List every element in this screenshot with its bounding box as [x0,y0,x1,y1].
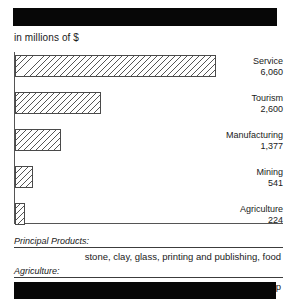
products-row-header: Agriculture: [14,266,283,278]
bar-service [15,55,216,77]
redacted-title-text [13,8,277,26]
products-row: Principal Products:stone, clay, glass, p… [14,236,283,266]
bar-category-name: Tourism [251,93,283,104]
bar-value-label: 1,377 [226,141,283,152]
redacted-title-banner [13,8,277,26]
bar-value-label: 6,060 [253,67,283,78]
bar-value-label: 541 [256,178,283,189]
bar-mining [15,166,33,188]
bar-label-tourism: Tourism2,600 [251,93,283,115]
redacted-footer-text [14,282,276,299]
units-caption: in millions of $ [14,32,79,43]
bar-label-mining: Mining541 [256,167,283,189]
products-row-header: Principal Products: [14,236,283,248]
bar-row [15,92,283,114]
bar-row [15,55,283,77]
redacted-footer-banner [14,282,276,299]
bar-category-name: Mining [256,167,283,178]
bar-label-manufacturing: Manufacturing1,377 [226,130,283,152]
bar-row [15,166,283,188]
bar-tourism [15,92,101,114]
bar-value-label: 2,600 [251,104,283,115]
bar-label-service: Service6,060 [253,56,283,78]
bar-value-label: 224 [240,215,283,226]
industry-bar-chart: Service6,060Tourism2,600Manufacturing1,3… [0,52,291,230]
products-row-value: stone, clay, glass, printing and publish… [14,248,283,266]
bar-manufacturing [15,129,61,151]
bar-category-name: Service [253,56,283,67]
bar-label-agriculture: Agriculture224 [240,204,283,226]
bar-category-name: Agriculture [240,204,283,215]
bar-category-name: Manufacturing [226,130,283,141]
bar-agriculture [15,203,25,225]
